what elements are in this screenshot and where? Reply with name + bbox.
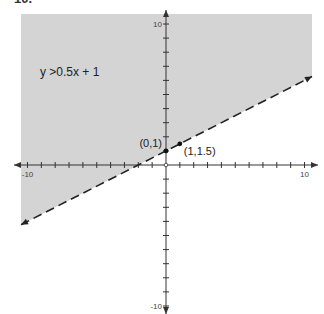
- x-tick-label-min: -10: [22, 170, 34, 179]
- y-axis-arrow-up-icon: [163, 10, 169, 17]
- point-label: (0,1): [139, 137, 162, 149]
- origin-marker: [164, 163, 168, 167]
- y-tick-label-max: 10: [153, 20, 162, 29]
- inequality-graph: -101010-10 (0,1)(1,1.5) y >0.5x + 1: [0, 0, 324, 314]
- x-axis-arrow-left-icon: [14, 162, 21, 168]
- inequality-label: y >0.5x + 1: [40, 65, 100, 79]
- point-label: (1,1.5): [184, 145, 216, 157]
- x-axis-arrow-right-icon: [311, 162, 318, 168]
- data-point: [177, 141, 182, 146]
- x-tick-label-max: 10: [300, 170, 309, 179]
- y-axis-arrow-down-icon: [163, 307, 169, 314]
- data-point: [164, 149, 169, 154]
- y-tick-label-min: -10: [150, 302, 162, 311]
